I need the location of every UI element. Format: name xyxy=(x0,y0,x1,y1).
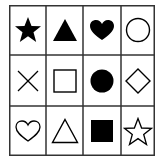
cell-r2-c3 xyxy=(121,106,155,156)
cell-r2-c1 xyxy=(46,106,83,156)
cell-r1-c3 xyxy=(121,55,155,106)
star-outline-icon xyxy=(123,117,153,146)
circle-outline-icon xyxy=(125,17,151,43)
square-outline-icon xyxy=(53,69,77,93)
triangle-filled-icon xyxy=(52,18,78,42)
shape-grid xyxy=(9,5,155,156)
cell-r2-c2 xyxy=(83,106,121,156)
cell-r1-c2 xyxy=(83,55,121,106)
square-filled-icon xyxy=(91,120,113,142)
cell-r1-c1 xyxy=(46,55,83,106)
cell-r2-c0 xyxy=(9,106,46,156)
heart-filled-icon xyxy=(89,19,115,41)
cell-r0-c2 xyxy=(83,5,121,55)
triangle-outline-icon xyxy=(51,118,79,144)
cell-r0-c0 xyxy=(9,5,46,55)
cell-r0-c1 xyxy=(46,5,83,55)
circle-filled-icon xyxy=(90,69,114,93)
cell-r1-c0 xyxy=(9,55,46,106)
heart-outline-icon xyxy=(15,120,41,142)
star-filled-icon xyxy=(14,16,42,44)
diamond-outline-icon xyxy=(125,68,151,94)
cell-r0-c3 xyxy=(121,5,155,55)
cross-icon xyxy=(16,69,40,93)
